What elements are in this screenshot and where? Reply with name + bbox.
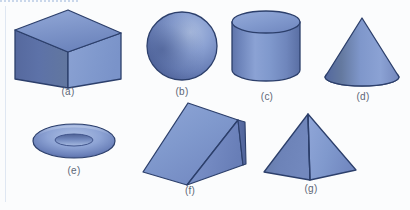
pyramid-face-right xyxy=(308,114,356,180)
sphere-shadow-overlay xyxy=(147,12,217,80)
shape-cone xyxy=(325,18,399,86)
left-margin-rule xyxy=(5,6,6,202)
label-pyramid: (g) xyxy=(305,183,318,194)
shape-cylinder xyxy=(232,11,300,81)
shape-torus xyxy=(33,124,115,158)
pyramid-face-left xyxy=(264,114,310,180)
bottom-dotted-rule xyxy=(0,0,78,4)
torus-inner-hole xyxy=(55,134,93,146)
label-torus: (e) xyxy=(68,165,81,176)
label-wedge: (f) xyxy=(185,185,195,196)
label-cone: (d) xyxy=(357,91,370,102)
label-cylinder: (c) xyxy=(261,91,273,102)
shape-cube xyxy=(15,10,121,88)
geometric-solids-illustration xyxy=(0,0,410,210)
shape-pyramid xyxy=(264,114,356,180)
shape-wedge xyxy=(143,103,246,185)
cone-lateral-surface xyxy=(325,18,399,86)
label-sphere: (b) xyxy=(176,86,189,97)
figure-container: (a) (b) (c) (d) (e) (f) (g) xyxy=(0,0,410,210)
cylinder-top-ellipse xyxy=(232,11,300,33)
shape-sphere xyxy=(147,12,217,80)
label-cube: (a) xyxy=(62,86,75,97)
